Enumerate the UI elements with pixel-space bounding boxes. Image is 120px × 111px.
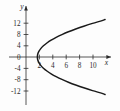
x-tick-label-10: 10 bbox=[89, 62, 97, 70]
y-tick-label-8: 8 bbox=[17, 31, 21, 39]
x-tick-label-4: 4 bbox=[51, 62, 55, 70]
y-tick-label-12: 12 bbox=[13, 20, 21, 28]
x-tick-label-6: 6 bbox=[64, 62, 68, 70]
x-tick-label-8: 8 bbox=[78, 62, 82, 70]
y-axis-arrow-icon bbox=[24, 6, 28, 11]
x-axis-label: x bbox=[104, 58, 109, 67]
y-tick-label-minus8: -8 bbox=[15, 76, 21, 84]
y-tick-label-4: 4 bbox=[17, 42, 21, 50]
y-tick-label-minus12: -12 bbox=[11, 88, 21, 96]
parabola-figure: 2 4 6 8 10 12 8 4 0 -4 -8 -12 x y bbox=[0, 0, 120, 111]
y-tick-label-minus4: -4 bbox=[15, 65, 21, 73]
plot-canvas: 2 4 6 8 10 12 8 4 0 -4 -8 -12 x y bbox=[0, 0, 120, 111]
y-tick-label-0: 0 bbox=[17, 54, 21, 62]
y-axis-label: y bbox=[19, 2, 24, 11]
